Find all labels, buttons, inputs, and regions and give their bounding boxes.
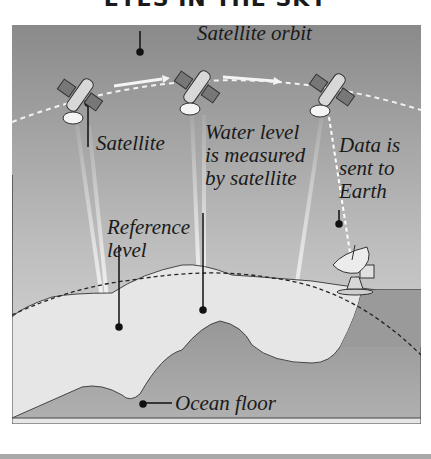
diagram-panel: Satellite orbit Satellite Water level is…	[12, 25, 421, 424]
label-satellite-orbit: Satellite orbit	[197, 25, 312, 45]
label-ocean-floor: Ocean floor	[175, 391, 276, 415]
bottom-divider	[0, 454, 431, 459]
label-data-3: Earth	[339, 179, 387, 203]
satellite-middle-dish	[180, 103, 200, 115]
satellite-right-dish	[310, 105, 330, 117]
label-water-level-2: is measured	[205, 143, 305, 167]
label-data-2: sent to	[339, 156, 394, 180]
label-reference-1: Reference	[107, 215, 190, 239]
label-water-level-3: by satellite	[205, 166, 297, 190]
diagram-title: EYES IN THE SKY	[0, 0, 431, 11]
label-reference-2: level	[107, 238, 147, 262]
label-water-level-1: Water level	[205, 120, 299, 144]
label-satellite: Satellite	[96, 131, 165, 155]
diagram-illustration	[12, 25, 421, 424]
satellite-left-dish	[63, 112, 83, 124]
label-data-1: Data is	[339, 133, 400, 157]
